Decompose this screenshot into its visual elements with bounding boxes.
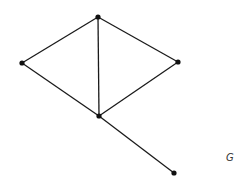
edge-right-middle — [99, 62, 178, 116]
edge-top-middle — [98, 17, 99, 116]
edges — [22, 17, 178, 173]
node-bottom — [171, 170, 176, 175]
nodes — [19, 14, 180, 175]
edge-top-right — [98, 17, 178, 62]
node-middle — [96, 113, 101, 118]
edge-middle-bottom — [99, 116, 174, 173]
node-top — [95, 14, 100, 19]
node-right — [175, 59, 180, 64]
edge-left-middle — [22, 63, 99, 116]
graph-diagram: G — [0, 0, 243, 187]
graph-label: G — [226, 152, 234, 163]
node-left — [19, 60, 24, 65]
edge-top-left — [22, 17, 98, 63]
